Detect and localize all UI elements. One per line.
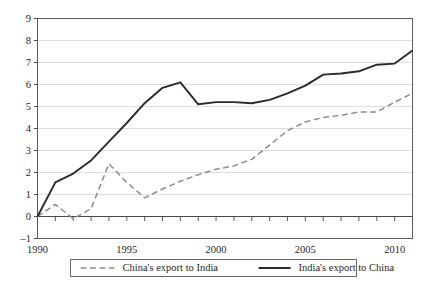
- legend-label-1: China's export to India: [123, 262, 219, 273]
- series-line-2: [38, 50, 413, 216]
- x-tick-label: 1995: [116, 244, 137, 255]
- x-tick-label: 2000: [206, 244, 227, 255]
- x-tick-label: 1990: [27, 244, 48, 255]
- line-chart: –1012345678919901995200020052010China's …: [0, 0, 428, 286]
- y-tick-label: 4: [26, 123, 32, 134]
- y-tick-label: 0: [26, 211, 31, 222]
- y-tick-label: 9: [26, 13, 31, 24]
- y-tick-label: 2: [26, 167, 31, 178]
- legend-label-2: India's export to China: [299, 262, 395, 273]
- y-tick-label: 8: [26, 35, 31, 46]
- y-tick-label: 5: [26, 101, 31, 112]
- series-line-1: [38, 93, 413, 218]
- x-tick-label: 2005: [295, 244, 316, 255]
- y-tick-label: 3: [26, 145, 31, 156]
- y-tick-label: 1: [26, 189, 31, 200]
- chart-figure: –1012345678919901995200020052010China's …: [0, 0, 428, 286]
- x-tick-label: 2010: [384, 244, 405, 255]
- y-tick-label: 6: [26, 79, 31, 90]
- y-tick-label: 7: [26, 57, 31, 68]
